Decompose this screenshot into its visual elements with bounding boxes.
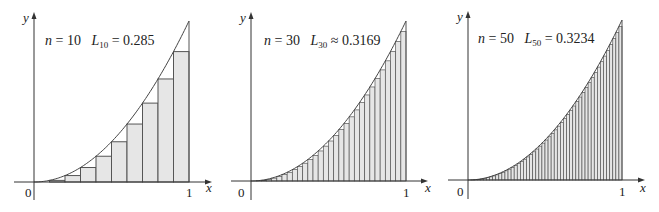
x-tick-0: 0 [25,185,32,201]
panel-n10: n = 10 L10 = 0.285 y 0 1 x [0,0,220,212]
riemann-rectangle [576,102,579,180]
x-tick-1: 1 [619,184,626,200]
riemann-rectangle [65,176,81,182]
riemann-rectangle [548,137,551,180]
riemann-rectangle [287,172,292,181]
riemann-rectangle [96,156,112,182]
riemann-rectangle [380,70,385,181]
riemann-rectangle [508,169,511,180]
y-axis-label: y [457,9,463,25]
x-axis-label: x [206,180,212,196]
riemann-rectangle [282,175,287,181]
riemann-rectangle [511,167,514,180]
riemann-rectangle [616,33,619,180]
riemann-rectangle [539,146,542,180]
panel-label-n10: n = 10 L10 = 0.285 [45,33,155,50]
riemann-rectangle [354,110,359,181]
riemann-rectangle [582,92,585,180]
riemann-rectangle [610,45,613,180]
riemann-rectangle [365,95,370,181]
riemann-rectangle [496,175,499,180]
riemann-rectangle [597,67,600,180]
riemann-rectangle [517,164,520,180]
panel-n50: n = 50 L50 = 0.3234 y 0 1 x [439,0,659,212]
riemann-rectangle [143,103,159,182]
riemann-rectangle [375,79,380,181]
riemann-rectangle [567,114,570,180]
riemann-rectangle [542,143,545,180]
riemann-rectangle [523,159,526,180]
riemann-rectangle [600,62,603,180]
x-axis-label: x [640,180,646,196]
riemann-rectangle [514,166,517,180]
x-tick-1: 1 [403,185,410,201]
riemann-rectangle [499,174,502,180]
riemann-rectangle [396,42,401,181]
y-axis-label: y [240,10,246,26]
riemann-rectangle [563,118,566,180]
riemann-rectangle [329,141,334,181]
x-tick-1: 1 [186,185,193,201]
riemann-rectangle [158,79,174,182]
panel-label-n30: n = 30 L30 ≈ 0.3169 [264,33,380,50]
riemann-rectangle [360,103,365,181]
riemann-rectangle [560,122,563,180]
chart-n10 [0,0,220,212]
panel-n30: n = 30 L30 ≈ 0.3169 y 0 1 x [220,0,440,212]
riemann-rectangle [530,154,533,180]
panel-label-n50: n = 50 L50 = 0.3234 [478,31,595,48]
riemann-rectangle [573,106,576,180]
x-tick-0: 0 [238,185,245,201]
riemann-rectangle [570,110,573,180]
riemann-rectangle [391,51,396,181]
riemann-rectangle [533,152,536,180]
riemann-rectangle [292,170,297,181]
riemann-rectangle [520,162,523,180]
riemann-rectangle [536,149,539,180]
y-axis-arrow-icon [32,12,37,19]
riemann-rectangle [174,52,190,182]
riemann-rectangle [344,123,349,181]
riemann-rectangle [557,126,560,180]
riemann-rectangle [502,172,505,180]
riemann-rectangle [385,61,390,181]
riemann-rectangle [308,159,313,181]
riemann-rectangle [277,177,282,181]
riemann-rectangle [588,83,591,180]
riemann-rectangle [613,39,616,180]
riemann-rectangle [303,163,308,181]
riemann-rectangle [604,56,607,180]
riemann-rectangle [81,168,97,182]
riemann-rectangle [349,117,354,181]
riemann-rectangle [127,124,143,182]
riemann-rectangle [298,167,303,181]
riemann-rectangle [112,142,128,182]
riemann-rectangle [313,155,318,181]
riemann-rectangle [527,157,530,180]
riemann-rectangle [545,140,548,180]
riemann-rectangle [401,31,406,181]
y-axis-arrow-icon [249,12,254,19]
riemann-rectangle [318,151,323,181]
riemann-rectangle [334,135,339,181]
y-axis-label: y [23,10,29,26]
y-axis-arrow-icon [466,11,471,18]
riemann-rectangle [585,88,588,180]
riemann-rectangle [493,176,496,180]
riemann-rectangle [323,146,328,181]
riemann-rectangle [594,72,597,180]
chart-n30 [220,0,440,212]
x-axis-label: x [425,180,431,196]
riemann-rectangle [579,97,582,180]
riemann-rectangle [551,133,554,180]
riemann-rectangle [607,50,610,180]
riemann-rectangle [370,87,375,181]
riemann-rectangle [554,130,557,180]
riemann-rectangle [339,130,344,181]
x-tick-0: 0 [457,184,464,200]
riemann-rectangle [591,78,594,180]
riemann-rectangle [505,171,508,180]
